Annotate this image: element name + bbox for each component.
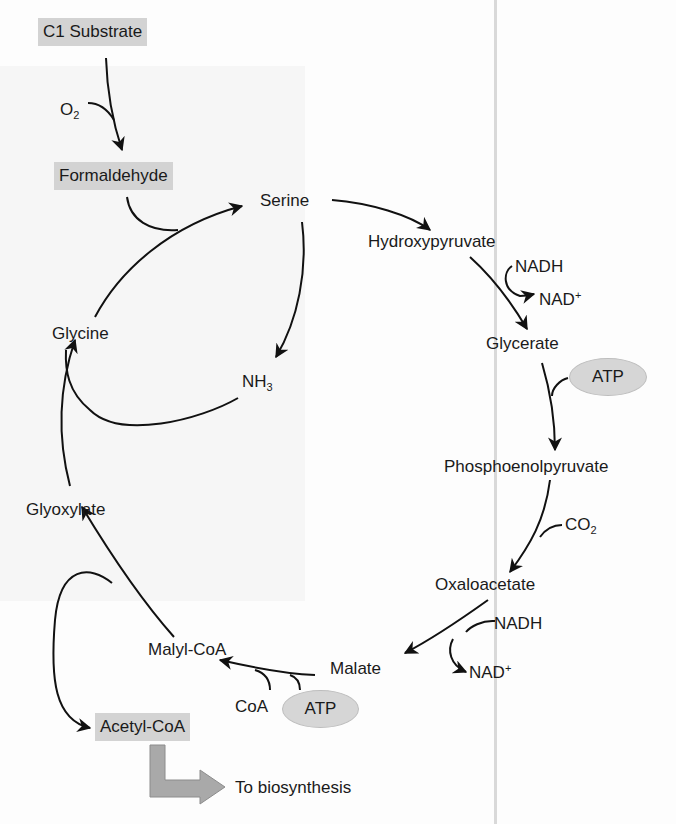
c1-substrate-box: C1 Substrate — [38, 18, 147, 46]
formaldehyde-box: Formaldehyde — [54, 162, 173, 190]
nadh-label-1: NADH — [515, 257, 563, 277]
acetyl-coa-label: Acetyl-CoA — [100, 717, 185, 736]
c1-substrate-label: C1 Substrate — [43, 22, 142, 41]
malyl-coa-label: Malyl-CoA — [148, 640, 226, 660]
nad-plus-label-1: NAD+ — [539, 285, 581, 310]
o2-label: O2 — [60, 100, 79, 125]
phosphoenolpyruvate-label: Phosphoenolpyruvate — [444, 457, 608, 477]
nh3-label: NH3 — [242, 372, 273, 397]
glycerate-label: Glycerate — [486, 334, 559, 354]
acetyl-coa-box: Acetyl-CoA — [95, 713, 190, 741]
to-biosynthesis-label: To biosynthesis — [235, 778, 351, 798]
serine-label: Serine — [260, 191, 309, 211]
nad-plus-label-2: NAD+ — [469, 658, 511, 683]
oxaloacetate-label: Oxaloacetate — [435, 575, 535, 595]
nadh-label-2: NADH — [494, 614, 542, 634]
glyoxylate-label: Glyoxylate — [26, 500, 105, 520]
atp-oval-1: ATP — [569, 358, 647, 396]
co2-label: CO2 — [565, 515, 597, 540]
formaldehyde-label: Formaldehyde — [59, 166, 168, 185]
coa-label: CoA — [235, 697, 268, 717]
glycine-label: Glycine — [52, 324, 109, 344]
malate-label: Malate — [330, 659, 381, 679]
to-biosynthesis-arrow — [150, 745, 225, 804]
atp-oval-2: ATP — [282, 690, 359, 728]
hydroxypyruvate-label: Hydroxypyruvate — [368, 232, 496, 252]
